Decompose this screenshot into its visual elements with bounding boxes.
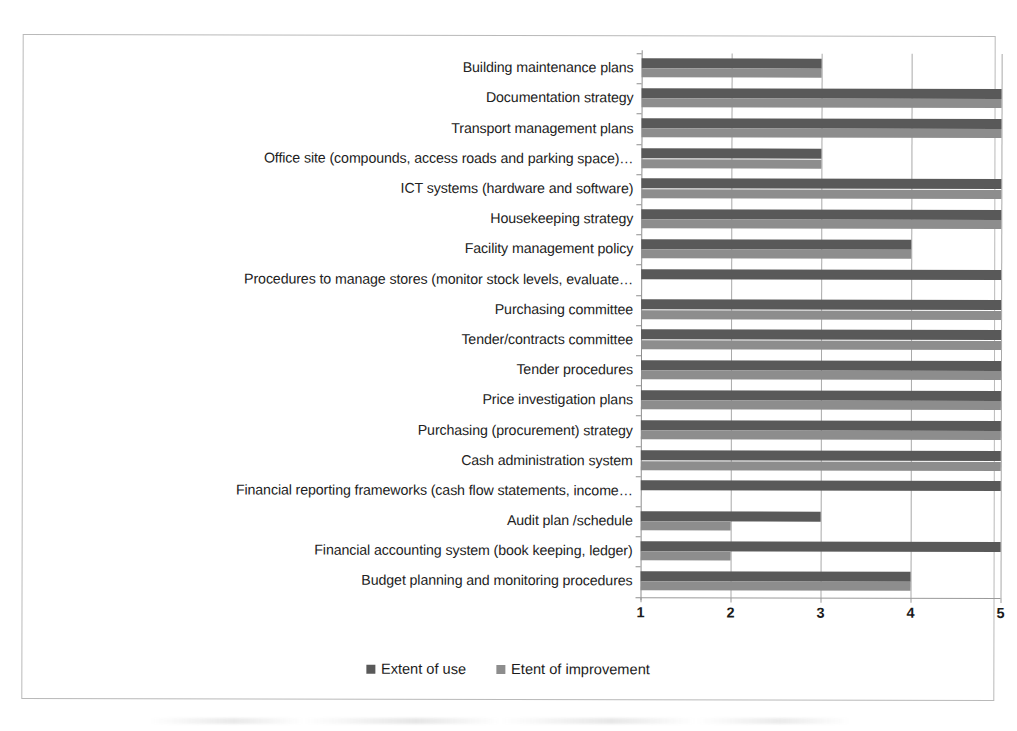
bar-extent-of-improvement[interactable] — [641, 249, 911, 259]
category-label: Office site (compounds, access roads and… — [264, 150, 634, 166]
category-label-row: Procedures to manage stores (monitor sto… — [163, 264, 633, 295]
bar-group — [641, 325, 1001, 356]
bar-extent-of-improvement[interactable] — [641, 431, 1001, 441]
category-label-row: Cash administration system — [163, 445, 633, 476]
bar-group — [641, 144, 1001, 175]
category-tick — [636, 265, 641, 266]
category-tick — [636, 325, 641, 326]
legend-swatch-icon — [366, 664, 375, 673]
bar-extent-of-improvement[interactable] — [641, 551, 731, 560]
bar-extent-of-improvement[interactable] — [641, 219, 1001, 229]
category-label-row: Transport management plans — [163, 113, 633, 144]
legend-label: Extent of use — [381, 661, 466, 677]
category-tick — [636, 446, 641, 447]
category-label-row: Budget planning and monitoring procedure… — [163, 565, 633, 596]
bar-extent-of-improvement[interactable] — [641, 461, 1001, 471]
bar-extent-of-improvement[interactable] — [642, 98, 1002, 108]
bar-group — [641, 506, 1001, 537]
bar-extent-of-use[interactable] — [641, 420, 1001, 431]
category-tick — [637, 114, 642, 115]
category-label: Housekeeping strategy — [490, 211, 633, 227]
bar-group — [641, 174, 1001, 205]
category-label: Facility management policy — [465, 241, 634, 257]
bar-extent-of-use[interactable] — [641, 360, 1001, 371]
category-label-row: Office site (compounds, access roads and… — [163, 143, 633, 174]
category-tick — [636, 385, 641, 386]
category-tick — [636, 295, 641, 296]
legend-item[interactable]: Etent of improvement — [496, 661, 650, 677]
category-tick — [637, 83, 642, 84]
chart-plot-wrapper: Building maintenance plansDocumentation … — [22, 35, 994, 700]
bar-extent-of-use[interactable] — [641, 450, 1001, 461]
category-tick — [637, 53, 642, 54]
bar-extent-of-use[interactable] — [641, 269, 1001, 280]
category-label-row: Facility management policy — [163, 233, 633, 264]
bar-extent-of-improvement[interactable] — [641, 370, 1001, 380]
bar-group — [641, 416, 1001, 447]
x-axis-tick-labels: 12345 — [640, 604, 1000, 627]
bar-extent-of-improvement[interactable] — [641, 189, 1001, 199]
category-tick — [636, 355, 641, 356]
bar-extent-of-improvement[interactable] — [641, 400, 1001, 410]
chart-legend: Extent of useEtent of improvement — [22, 660, 993, 678]
bar-extent-of-improvement[interactable] — [641, 310, 1001, 320]
category-label-row: ICT systems (hardware and software) — [163, 173, 633, 204]
scan-artifact — [150, 718, 850, 724]
category-label: Tender/contracts committee — [461, 332, 633, 348]
bar-extent-of-use[interactable] — [641, 179, 1001, 190]
bar-extent-of-improvement[interactable] — [641, 159, 821, 168]
x-axis-tick-label: 2 — [726, 604, 734, 620]
x-axis-tick — [641, 597, 642, 602]
category-label-row: Audit plan /schedule — [163, 505, 633, 536]
category-tick — [636, 234, 641, 235]
category-label-row: Tender procedures — [163, 354, 633, 385]
bar-group — [641, 385, 1001, 416]
category-label: Price investigation plans — [482, 392, 633, 408]
bar-group — [641, 536, 1001, 567]
bar-extent-of-use[interactable] — [641, 148, 821, 158]
bar-extent-of-use[interactable] — [642, 118, 1002, 129]
category-label: Cash administration system — [461, 453, 633, 469]
bar-extent-of-use[interactable] — [641, 571, 911, 582]
bar-extent-of-use[interactable] — [641, 511, 821, 521]
category-label: Purchasing committee — [495, 302, 633, 318]
x-axis-tick-label: 1 — [636, 604, 644, 620]
category-label: Procedures to manage stores (monitor sto… — [244, 271, 633, 287]
category-tick — [636, 476, 641, 477]
bar-extent-of-use[interactable] — [641, 209, 1001, 220]
x-axis-tick — [911, 598, 912, 603]
category-label: Financial reporting frameworks (cash flo… — [236, 482, 633, 498]
category-label-row: Purchasing committee — [163, 294, 633, 325]
category-tick — [636, 567, 641, 568]
bar-group — [641, 476, 1001, 507]
bar-extent-of-use[interactable] — [641, 541, 1001, 552]
category-label: Budget planning and monitoring procedure… — [361, 573, 632, 589]
bar-extent-of-use[interactable] — [642, 58, 822, 68]
legend-item[interactable]: Extent of use — [366, 661, 466, 677]
x-axis-tick — [1001, 598, 1002, 603]
legend-swatch-icon — [496, 664, 505, 673]
category-tick — [636, 204, 641, 205]
bar-extent-of-use[interactable] — [642, 88, 1002, 99]
bar-extent-of-improvement[interactable] — [641, 582, 911, 592]
bar-extent-of-improvement[interactable] — [642, 68, 822, 77]
bar-extent-of-use[interactable] — [641, 390, 1001, 401]
plot-area — [641, 53, 1002, 598]
bar-extent-of-use[interactable] — [641, 330, 1001, 341]
bar-group — [641, 567, 1001, 598]
category-tick — [636, 536, 641, 537]
bar-extent-of-improvement[interactable] — [641, 340, 1001, 350]
bar-group — [641, 265, 1001, 296]
bar-extent-of-use[interactable] — [641, 239, 911, 250]
bar-extent-of-use[interactable] — [641, 299, 1001, 310]
legend-label: Etent of improvement — [511, 661, 650, 677]
bar-extent-of-improvement[interactable] — [641, 521, 731, 530]
category-label-row: Price investigation plans — [163, 384, 633, 415]
bar-group — [641, 234, 1001, 265]
bar-extent-of-use[interactable] — [641, 481, 1001, 492]
category-axis-labels: Building maintenance plansDocumentation … — [163, 52, 634, 596]
category-label: Audit plan /schedule — [507, 513, 633, 529]
category-label: Purchasing (procurement) strategy — [418, 422, 633, 438]
bar-extent-of-improvement[interactable] — [641, 129, 1001, 139]
x-axis-line — [641, 597, 1001, 599]
